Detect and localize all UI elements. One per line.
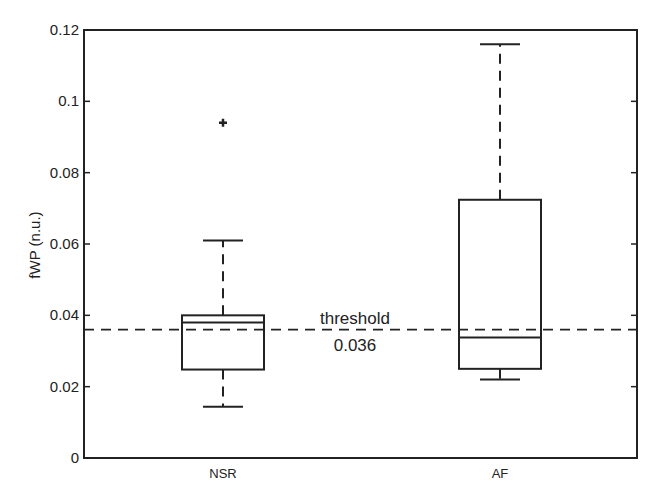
x-category-label: AF — [492, 466, 509, 481]
y-axis-label: fWP (n.u.) — [26, 211, 43, 278]
y-tick-label: 0.06 — [50, 235, 79, 252]
y-tick-label: 0.04 — [50, 306, 79, 323]
y-tick-label: 0 — [71, 449, 79, 466]
threshold-line: threshold0.036 — [84, 309, 637, 355]
box-nsr — [182, 119, 264, 407]
y-tick-label: 0.02 — [50, 378, 79, 395]
box-plot: 00.020.040.060.080.10.12 threshold0.036 … — [0, 0, 662, 497]
threshold-value: 0.036 — [334, 336, 377, 355]
plot-area — [84, 30, 637, 458]
interquartile-box — [459, 200, 541, 369]
axes-frame — [84, 30, 637, 458]
x-category-label: NSR — [209, 466, 236, 481]
y-tick-label: 0.08 — [50, 164, 79, 181]
y-tick-label: 0.1 — [58, 92, 79, 109]
x-axis-labels: NSRAF — [209, 466, 508, 481]
threshold-label: threshold — [320, 309, 390, 328]
y-tick-label: 0.12 — [50, 21, 79, 38]
y-axis-ticks: 00.020.040.060.080.10.12 — [50, 21, 637, 466]
outlier-marker — [219, 119, 227, 127]
